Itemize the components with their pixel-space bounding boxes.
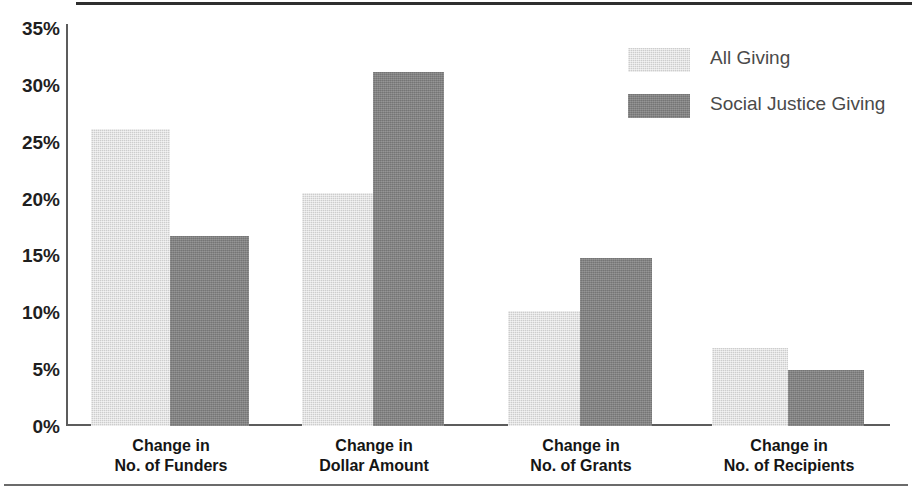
y-tick-5: 5% bbox=[2, 359, 60, 381]
bar-group-2 bbox=[302, 26, 444, 426]
y-tick-15: 15% bbox=[2, 245, 60, 267]
bar-all-giving-1[interactable] bbox=[91, 129, 170, 426]
legend-swatch-social-justice-giving bbox=[628, 94, 690, 118]
x-label-group-2-line1: Change in bbox=[302, 436, 446, 456]
y-tick-25: 25% bbox=[2, 132, 60, 154]
x-label-group-1-line1: Change in bbox=[91, 436, 251, 456]
bar-chart-figure: 35% 30% 25% 20% 15% 10% 5% 0% Change i bbox=[0, 0, 912, 498]
y-tick-0: 0% bbox=[2, 416, 60, 438]
y-tick-20: 20% bbox=[2, 189, 60, 211]
y-axis-tick-labels: 35% 30% 25% 20% 15% 10% 5% 0% bbox=[0, 0, 60, 498]
bar-all-giving-2[interactable] bbox=[302, 193, 373, 426]
bar-social-justice-giving-3[interactable] bbox=[580, 258, 652, 426]
bar-all-giving-4[interactable] bbox=[712, 348, 788, 426]
y-tick-30: 30% bbox=[2, 75, 60, 97]
x-label-group-4-line1: Change in bbox=[712, 436, 866, 456]
top-divider-rule bbox=[76, 2, 912, 5]
bar-social-justice-giving-2[interactable] bbox=[373, 72, 444, 426]
bar-all-giving-3[interactable] bbox=[508, 311, 580, 426]
x-label-group-3-line2: No. of Grants bbox=[508, 456, 654, 476]
legend-label-all-giving: All Giving bbox=[710, 47, 790, 69]
legend-item-all-giving[interactable]: All Giving bbox=[628, 48, 908, 82]
bar-social-justice-giving-4[interactable] bbox=[788, 370, 864, 426]
x-label-group-1-line2: No. of Funders bbox=[91, 456, 251, 476]
legend-item-social-justice-giving[interactable]: Social Justice Giving bbox=[628, 94, 908, 128]
x-label-group-2: Change in Dollar Amount bbox=[302, 436, 446, 476]
x-label-group-1: Change in No. of Funders bbox=[91, 436, 251, 476]
legend-label-social-justice-giving: Social Justice Giving bbox=[710, 93, 885, 115]
y-tick-35: 35% bbox=[2, 18, 60, 40]
legend-swatch-all-giving bbox=[628, 48, 690, 72]
chart-legend: All Giving Social Justice Giving bbox=[628, 48, 908, 140]
x-label-group-2-line2: Dollar Amount bbox=[302, 456, 446, 476]
y-axis-line bbox=[66, 24, 68, 426]
x-label-group-3: Change in No. of Grants bbox=[508, 436, 654, 476]
y-tick-10: 10% bbox=[2, 302, 60, 324]
bar-social-justice-giving-1[interactable] bbox=[170, 236, 249, 426]
x-label-group-3-line1: Change in bbox=[508, 436, 654, 456]
x-label-group-4: Change in No. of Recipients bbox=[712, 436, 866, 476]
x-label-group-4-line2: No. of Recipients bbox=[712, 456, 866, 476]
bar-group-1 bbox=[91, 26, 249, 426]
bottom-divider-rule bbox=[4, 484, 908, 486]
